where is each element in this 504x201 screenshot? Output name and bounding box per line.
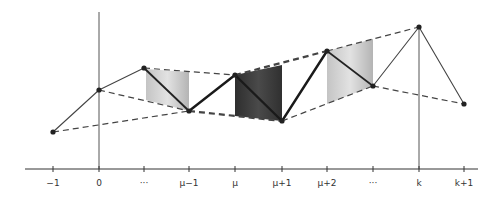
tick-label: μ+2 xyxy=(318,178,337,188)
point-mu-minus-1 xyxy=(186,108,191,113)
piecewise-linear-diagram: −1 0 ··· μ−1 μ μ+1 μ+2 ··· k k+1 xyxy=(0,0,504,201)
tick-label: μ+1 xyxy=(273,178,292,188)
point-0 xyxy=(96,87,101,92)
tick-label: k xyxy=(416,178,422,188)
point-minus-1 xyxy=(50,129,55,134)
tick-labels: −1 0 ··· μ−1 μ μ+1 μ+2 ··· k k+1 xyxy=(46,178,473,188)
tick-label: μ−1 xyxy=(180,178,199,188)
tick-label: ··· xyxy=(140,178,149,188)
point-dots-right xyxy=(370,83,375,88)
point-mu xyxy=(232,72,237,77)
point-mu-plus-2 xyxy=(324,48,329,53)
tick-label: −1 xyxy=(46,178,59,188)
point-k-plus-1 xyxy=(461,101,466,106)
tick-label: k+1 xyxy=(455,178,473,188)
point-k xyxy=(416,24,421,29)
tick-label: ··· xyxy=(369,178,378,188)
point-dots-left xyxy=(141,65,146,70)
tick-label: μ xyxy=(232,178,238,188)
point-mu-plus-1 xyxy=(279,118,284,123)
tick-label: 0 xyxy=(96,178,102,188)
